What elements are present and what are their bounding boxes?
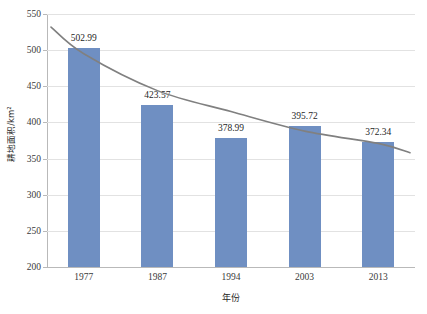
y-tick-label-250: 250 [7, 226, 41, 236]
y-tick-label-300: 300 [7, 190, 41, 200]
gridline-500 [47, 50, 415, 51]
plot-area [47, 14, 415, 267]
y-tick-mark-350 [43, 159, 47, 160]
data-label-1977: 502.99 [54, 33, 114, 44]
y-tick-mark-450 [43, 86, 47, 87]
x-tick-label-2013: 2013 [348, 272, 408, 283]
bar-1994[interactable] [215, 138, 247, 267]
x-tick-label-1977: 1977 [54, 272, 114, 283]
y-tick-label-450: 450 [7, 81, 41, 91]
y-tick-label-500: 500 [7, 45, 41, 55]
data-label-1994: 378.99 [201, 123, 261, 134]
bar-1977[interactable] [68, 48, 100, 267]
y-tick-mark-500 [43, 50, 47, 51]
data-label-1987: 423.57 [127, 90, 187, 101]
chart-container: 耕地面积/km² 200250300350400450500550 502.99… [0, 0, 427, 314]
y-axis-tick-labels: 200250300350400450500550 [0, 0, 41, 314]
gridline-450 [47, 86, 415, 87]
x-tick-label-1994: 1994 [201, 272, 261, 283]
x-tick-label-2003: 2003 [275, 272, 335, 283]
data-label-2013: 372.34 [348, 127, 408, 138]
y-tick-label-350: 350 [7, 154, 41, 164]
x-axis-title: 年份 [47, 291, 415, 304]
gridline-550 [47, 14, 415, 15]
y-tick-mark-250 [43, 231, 47, 232]
y-tick-label-400: 400 [7, 117, 41, 127]
bar-1987[interactable] [141, 105, 173, 267]
bar-2003[interactable] [289, 126, 321, 267]
y-tick-mark-300 [43, 195, 47, 196]
x-tick-label-1987: 1987 [127, 272, 187, 283]
y-tick-mark-200 [43, 267, 47, 268]
y-tick-label-550: 550 [7, 9, 41, 19]
y-tick-label-200: 200 [7, 262, 41, 272]
gridline-200 [47, 267, 415, 268]
data-label-2003: 395.72 [275, 111, 335, 122]
y-tick-mark-550 [43, 14, 47, 15]
bar-2013[interactable] [362, 142, 394, 267]
y-tick-mark-400 [43, 122, 47, 123]
